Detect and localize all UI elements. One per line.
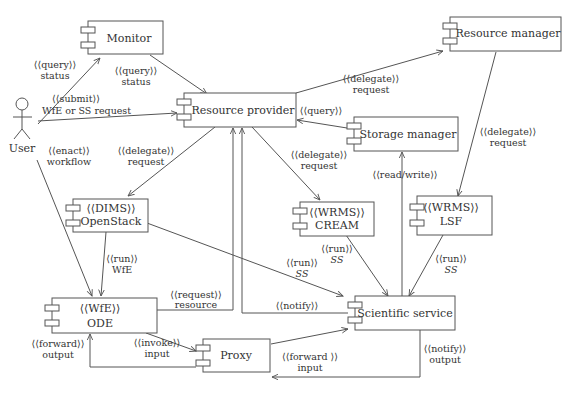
edge-label: ⟨⟨forward ⟩⟩	[282, 351, 338, 362]
edge-label: workflow	[47, 156, 91, 167]
edge-label: ⟨⟨query⟩⟩	[34, 59, 77, 70]
label-scientific-service: Scientific service	[357, 307, 453, 320]
edge-label: request	[353, 84, 390, 95]
edge-label: SS	[331, 254, 344, 265]
label-resource-manager: Resource manager	[455, 27, 561, 40]
edge-label: ⟨⟨submit⟩⟩	[52, 93, 100, 104]
component-icon	[177, 99, 191, 105]
edge-label: ⟨⟨delegate⟩⟩	[118, 145, 174, 156]
edge-label: status	[40, 70, 69, 81]
edge-label: ⟨⟨delegate⟩⟩	[343, 73, 399, 84]
edge-lsf-scientific-service	[409, 235, 443, 296]
edge-label: ⟨⟨notify⟩⟩	[424, 343, 466, 354]
edge-label: ⟨⟨forward⟩⟩	[31, 338, 84, 349]
label-cream: CREAM	[315, 219, 359, 232]
edge-label: ⟨⟨query⟩⟩	[300, 105, 343, 116]
label-openstack: OpenStack	[81, 215, 142, 228]
edge-label: ⟨⟨invoke⟩⟩	[134, 337, 180, 348]
component-icon	[410, 204, 424, 210]
label-lsf: LSF	[440, 215, 463, 228]
edge-storage-manager-resource-provider	[297, 120, 347, 128]
label-openstack-stereotype: ⟨⟨DIMS⟩⟩	[86, 202, 135, 215]
component-icon	[81, 27, 95, 33]
edge-label: output	[429, 354, 461, 365]
label-storage-manager: Storage manager	[360, 128, 458, 141]
label-ode-stereotype: ⟨⟨WfE⟩⟩	[80, 302, 121, 315]
edge-label: ⟨⟨delegate⟩⟩	[480, 126, 536, 137]
edge-label: ⟨⟨notify⟩⟩	[276, 300, 318, 311]
component-icon	[66, 205, 80, 211]
edge-label: WfE or SS request	[42, 105, 131, 116]
edge-label: SS	[445, 264, 458, 275]
edge-label: ⟨⟨run⟩⟩	[286, 257, 318, 268]
component-diagram: User	[0, 0, 573, 394]
edge-label: ⟨⟨delegate⟩⟩	[291, 149, 347, 160]
edge-label: ⟨⟨run⟩⟩	[435, 253, 467, 264]
edge-label: input	[297, 362, 322, 373]
edge-label: ⟨⟨query⟩⟩	[115, 65, 158, 76]
edge-label: status	[121, 76, 150, 87]
edge-proxy-scientific-service	[271, 329, 348, 344]
label-cream-stereotype: ⟨⟨WRMS⟩⟩	[309, 206, 365, 219]
component-icon	[45, 305, 59, 311]
edge-label: request	[128, 156, 165, 167]
edge-label: ⟨⟨read/write⟩⟩	[372, 169, 437, 180]
edge-label: resource	[175, 299, 218, 310]
component-icon	[293, 208, 307, 214]
edge-label: ⟨⟨run⟩⟩	[321, 243, 353, 254]
edge-label: output	[42, 349, 74, 360]
actor-user	[13, 98, 32, 139]
component-icon	[196, 345, 210, 351]
edge-label: input	[144, 348, 169, 359]
edge-label it: SS	[296, 268, 309, 279]
actor-head	[16, 98, 28, 110]
edge-label: ⟨⟨enact⟩⟩	[48, 145, 89, 156]
label-ode: ODE	[87, 317, 113, 330]
label-proxy: Proxy	[220, 349, 252, 362]
actor-label-user: User	[9, 142, 36, 155]
label-resource-provider: Resource provider	[191, 104, 295, 117]
edge-label: request	[490, 137, 527, 148]
label-monitor: Monitor	[107, 32, 153, 45]
edge-label: request	[301, 160, 338, 171]
edge-label: ⟨⟨run⟩⟩	[106, 253, 138, 264]
edge-openstack-ode	[101, 232, 106, 296]
edge-resource-manager-lsf	[458, 52, 496, 196]
label-lsf-stereotype: ⟨⟨WRMS⟩⟩	[423, 201, 479, 214]
edge-monitor-resource-provider	[150, 55, 207, 94]
edge-label: WfE	[112, 264, 132, 275]
